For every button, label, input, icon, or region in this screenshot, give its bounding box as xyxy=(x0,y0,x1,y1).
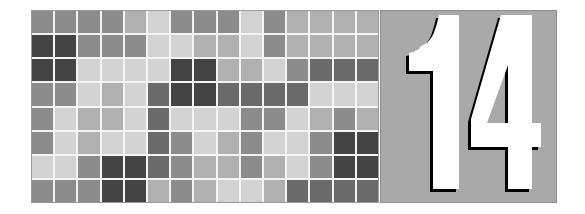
mosaic-tile xyxy=(310,132,331,154)
mosaic-tile xyxy=(241,35,262,57)
mosaic-tile xyxy=(194,132,215,154)
mosaic-tile xyxy=(32,11,53,33)
mosaic-tile xyxy=(218,11,239,33)
mosaic-tile xyxy=(171,83,192,105)
mosaic-tile xyxy=(241,59,262,81)
mosaic-tile xyxy=(264,59,285,81)
mosaic-tile xyxy=(241,156,262,178)
mosaic-tile xyxy=(218,35,239,57)
mosaic-tile xyxy=(125,156,146,178)
mosaic-tile xyxy=(78,180,99,202)
mosaic-tile xyxy=(241,180,262,202)
mosaic-tile xyxy=(148,11,169,33)
mosaic-tile xyxy=(78,59,99,81)
mosaic-tile xyxy=(194,11,215,33)
mosaic-tile xyxy=(264,11,285,33)
mosaic-tile xyxy=(32,83,53,105)
mosaic-tile xyxy=(310,59,331,81)
mosaic-tile xyxy=(310,108,331,130)
mosaic-tile xyxy=(171,156,192,178)
mosaic-tile xyxy=(287,11,308,33)
mosaic-tile xyxy=(334,35,355,57)
mosaic-tile xyxy=(148,35,169,57)
mosaic-tile xyxy=(241,108,262,130)
tile-mosaic xyxy=(31,10,379,203)
mosaic-tile xyxy=(148,180,169,202)
mosaic-tile xyxy=(32,132,53,154)
mosaic-tile xyxy=(357,156,378,178)
mosaic-tile xyxy=(241,11,262,33)
mosaic-tile xyxy=(171,132,192,154)
mosaic-tile xyxy=(148,156,169,178)
mosaic-tile xyxy=(218,83,239,105)
mosaic-tile xyxy=(171,108,192,130)
mosaic-tile xyxy=(310,83,331,105)
mosaic-tile xyxy=(310,180,331,202)
mosaic-tile xyxy=(194,83,215,105)
mosaic-tile xyxy=(32,180,53,202)
mosaic-tile xyxy=(102,11,123,33)
mosaic-tile xyxy=(194,156,215,178)
mosaic-tile xyxy=(148,59,169,81)
mosaic-tile xyxy=(334,11,355,33)
mosaic-tile xyxy=(55,35,76,57)
mosaic-tile xyxy=(171,11,192,33)
mosaic-tile xyxy=(287,59,308,81)
mosaic-tile xyxy=(194,59,215,81)
mosaic-tile xyxy=(171,35,192,57)
number-badge: 14 xyxy=(380,10,557,203)
mosaic-tile xyxy=(194,180,215,202)
mosaic-tile xyxy=(125,35,146,57)
mosaic-tile xyxy=(334,59,355,81)
mosaic-tile xyxy=(218,108,239,130)
mosaic-tile xyxy=(310,156,331,178)
mosaic-tile xyxy=(218,180,239,202)
mosaic-tile xyxy=(32,156,53,178)
mosaic-tile xyxy=(102,35,123,57)
mosaic-tile xyxy=(125,83,146,105)
mosaic-tile xyxy=(334,132,355,154)
mosaic-tile xyxy=(102,180,123,202)
mosaic-tile xyxy=(357,132,378,154)
mosaic-tile xyxy=(55,156,76,178)
mosaic-tile xyxy=(264,35,285,57)
mosaic-tile xyxy=(264,83,285,105)
mosaic-tile xyxy=(78,108,99,130)
mosaic-tile xyxy=(125,108,146,130)
mosaic-tile xyxy=(357,11,378,33)
number-14-graphic: 14 xyxy=(381,11,558,204)
mosaic-tile xyxy=(78,35,99,57)
mosaic-tile xyxy=(287,35,308,57)
mosaic-tile xyxy=(287,83,308,105)
mosaic-tile xyxy=(357,108,378,130)
mosaic-tile xyxy=(194,108,215,130)
mosaic-tile xyxy=(241,132,262,154)
mosaic-tile xyxy=(148,83,169,105)
mosaic-tile xyxy=(102,132,123,154)
mosaic-tile xyxy=(78,156,99,178)
mosaic-tile xyxy=(287,132,308,154)
mosaic-tile xyxy=(55,11,76,33)
mosaic-tile xyxy=(32,108,53,130)
mosaic-tile xyxy=(287,180,308,202)
mosaic-tile xyxy=(357,180,378,202)
mosaic-tile xyxy=(287,108,308,130)
mosaic-tile xyxy=(125,59,146,81)
mosaic-tile xyxy=(194,35,215,57)
mosaic-tile xyxy=(78,11,99,33)
mosaic-tile xyxy=(102,108,123,130)
mosaic-tile xyxy=(287,156,308,178)
mosaic-tile xyxy=(334,83,355,105)
mosaic-tile xyxy=(310,35,331,57)
mosaic-tile xyxy=(125,132,146,154)
mosaic-tile xyxy=(78,132,99,154)
mosaic-tile xyxy=(102,156,123,178)
mosaic-tile xyxy=(55,132,76,154)
mosaic-tile xyxy=(310,11,331,33)
mosaic-tile xyxy=(334,180,355,202)
mosaic-tile xyxy=(218,156,239,178)
mosaic-tile xyxy=(55,83,76,105)
mosaic-tile xyxy=(171,59,192,81)
mosaic-tile xyxy=(55,108,76,130)
mosaic-tile xyxy=(241,83,262,105)
